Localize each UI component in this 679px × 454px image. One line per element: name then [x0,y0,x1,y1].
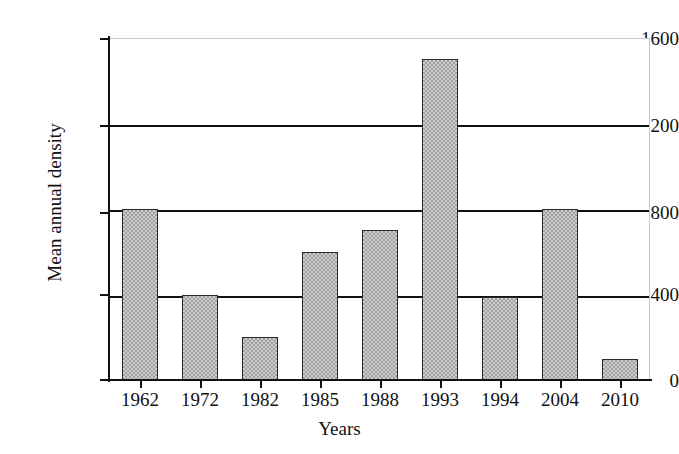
plot-area [110,38,650,380]
x-tick-mark-1993 [440,379,442,388]
x-tick-label-1985: 1985 [290,390,350,409]
table-row [122,209,158,380]
x-tick-mark-1962 [140,379,142,388]
x-tick-label-1994: 1994 [470,390,530,409]
x-tick-label-2004: 2004 [530,390,590,409]
table-row [482,297,518,380]
x-tick-mark-1994 [500,379,502,388]
x-tick-mark-1982 [260,379,262,388]
x-tick-mark-2004 [560,379,562,388]
x-tick-mark-1985 [320,379,322,388]
y-axis-line [108,36,110,382]
table-row [182,295,218,381]
x-tick-mark-2010 [620,379,622,388]
x-tick-mark-1988 [380,379,382,388]
table-row [422,59,458,380]
x-tick-label-1982: 1982 [230,390,290,409]
gridline-1200 [110,125,649,127]
y-axis-title: Mean annual density [45,53,64,353]
x-tick-mark-1972 [200,379,202,388]
table-row [242,337,278,380]
table-row [302,252,338,380]
x-tick-label-1988: 1988 [350,390,410,409]
bar-chart-figure: Mean annual density 1600 1200 800 400 0 … [0,0,679,454]
x-tick-label-1972: 1972 [170,390,230,409]
table-row [542,209,578,380]
x-tick-label-1993: 1993 [410,390,470,409]
table-row [602,359,638,380]
table-row [362,230,398,380]
x-tick-label-2010: 2010 [590,390,650,409]
x-tick-label-1962: 1962 [110,390,170,409]
x-axis-title: Years [0,418,679,440]
